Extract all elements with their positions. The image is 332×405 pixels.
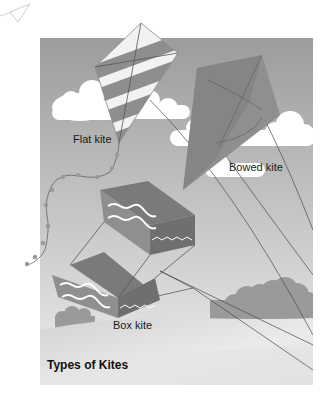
- figure-title: Types of Kites: [47, 358, 128, 372]
- bowed-kite-label: Bowed kite: [229, 161, 283, 173]
- illustration-canvas: [0, 0, 332, 405]
- box-kite-label: Box kite: [113, 319, 152, 331]
- flat-kite-label: Flat kite: [73, 133, 112, 145]
- kite-illustration: Flat kite Bowed kite Box kite Types of K…: [0, 0, 332, 405]
- corner-doodle-icon: [0, 4, 30, 22]
